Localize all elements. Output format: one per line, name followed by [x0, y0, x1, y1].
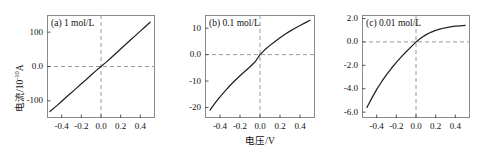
y-tick-label: -2.0	[322, 61, 358, 70]
y-tick-label: -100	[7, 96, 43, 105]
x-tick-label: 0.4	[125, 122, 155, 131]
y-tick-label: -20	[165, 103, 201, 112]
y-tick-label: 0.0	[322, 37, 358, 46]
panel-c-title: (c) 0.01 mol/L	[366, 18, 421, 28]
y-tick-label: -6.0	[322, 108, 358, 117]
x-tick-label: 0.4	[285, 122, 315, 131]
y-tick-label: 0.0	[7, 62, 43, 71]
y-tick-label: 0.0	[165, 50, 201, 59]
y-tick-label: 100	[7, 28, 43, 37]
x-axis-label: 电压/V	[205, 133, 315, 147]
y-tick-label: 10	[165, 24, 201, 33]
x-tick-label: 0.4	[440, 122, 470, 131]
figure-root: 电流/10-10A (a) 1 mol/L (b) 0.1 mol/L (c) …	[0, 0, 489, 151]
y-tick-label: -4.0	[322, 84, 358, 93]
y-tick-label: 2.0	[322, 14, 358, 23]
y-tick-label: -10	[165, 77, 201, 86]
